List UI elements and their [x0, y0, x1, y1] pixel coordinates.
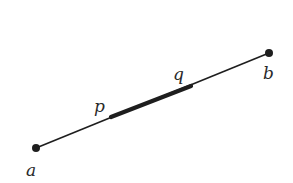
label-p: p — [94, 96, 105, 116]
label-a: a — [26, 160, 36, 180]
label-q: q — [173, 64, 184, 84]
label-b: b — [263, 63, 274, 83]
endpoint-b-dot — [265, 49, 273, 57]
segment-pq-highlighted — [111, 86, 191, 117]
segment-diagram: a b p q — [0, 0, 293, 183]
endpoint-a-dot — [32, 144, 40, 152]
